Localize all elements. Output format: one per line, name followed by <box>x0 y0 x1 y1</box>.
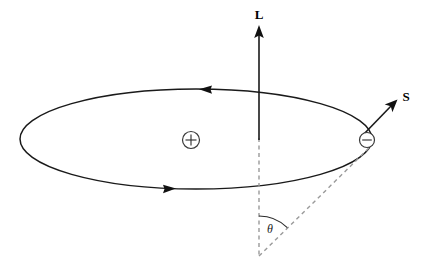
theta-angle-arc <box>259 216 287 228</box>
angular-momentum-label: L <box>255 7 264 22</box>
physics-diagram-figure: L S θ <box>0 0 425 269</box>
theta-angle-label: θ <box>267 222 273 236</box>
spin-label: S <box>402 89 409 104</box>
spin-vector-shaft <box>362 105 392 136</box>
radial-dashed-line <box>259 145 372 256</box>
diagram-canvas: L S θ <box>0 0 425 269</box>
orbit-direction-arrow-top-icon <box>199 85 212 93</box>
orbit-direction-arrow-bottom-icon <box>163 185 176 193</box>
